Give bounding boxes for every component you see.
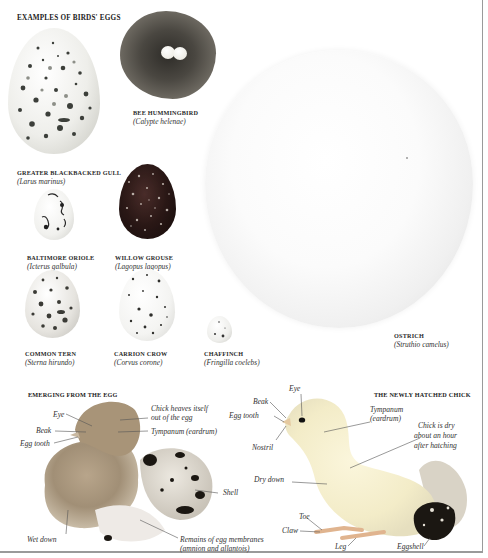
common-name: OSTRICH (394, 331, 449, 340)
label-heaves-line2: out of the egg (151, 413, 193, 422)
label-egg-tooth-hatched: Egg tooth (229, 411, 259, 420)
speckles-pattern (119, 269, 175, 341)
label-tympanum: Tympanum (eardrum) (151, 427, 217, 436)
baltimore-oriole-egg-image (34, 189, 74, 240)
caption-greater-blackbacked-gull: GREATER BLACKBACKED GULL (Larus marinus) (17, 168, 121, 186)
label-dry-line2: about an hour (414, 431, 457, 440)
common-name: CARRION CROW (114, 349, 167, 358)
label-toe: Toe (299, 512, 310, 521)
label-dry-line1: Chick is dry (418, 421, 455, 430)
label-eye: Eye (53, 410, 64, 419)
common-name: WILLOW GROUSE (115, 253, 173, 262)
label-shell: Shell (223, 488, 238, 497)
scientific-name: (Corvus corone) (114, 358, 167, 367)
speckles-pattern (8, 28, 100, 154)
label-egg-tooth: Egg tooth (20, 439, 50, 448)
caption-chaffinch: CHAFFINCH (Fringilla coelebs) (204, 349, 260, 367)
gull-egg-image (8, 28, 100, 154)
scientific-name: (Struthio camelus) (394, 340, 449, 349)
label-dry-down: Dry down (254, 475, 284, 484)
label-claw: Claw (282, 526, 298, 535)
label-eggshell: Eggshell (397, 542, 424, 551)
label-leg: Leg (335, 542, 346, 551)
scientific-name: (Calypte helenae) (133, 117, 198, 126)
hummingbird-egg-2 (173, 47, 187, 60)
caption-baltimore-oriole: BALTIMORE ORIOLE (Icterus galbula) (27, 253, 94, 271)
common-name: BEE HUMMINGBIRD (133, 108, 198, 117)
eggs-section-heading: EXAMPLES OF BIRDS' EGGS (17, 14, 121, 22)
label-nostril: Nostril (252, 443, 273, 452)
common-tern-egg-image (25, 270, 80, 338)
willow-grouse-egg-image (119, 164, 176, 239)
label-beak: Beak (36, 426, 51, 435)
chaffinch-egg-image (207, 316, 232, 343)
common-name: GREATER BLACKBACKED GULL (17, 168, 121, 177)
encyclopedia-page: EXAMPLES OF BIRDS' EGGS (0, 0, 483, 553)
carrion-crow-egg-image (119, 269, 175, 341)
label-dry-line3: after hatching (414, 441, 457, 450)
label-wet-down: Wet down (27, 535, 56, 544)
label-tympanum-hatched-line1: Tympanum (370, 405, 403, 414)
scientific-name: (Larus marinus) (17, 177, 121, 186)
common-name: CHAFFINCH (204, 349, 260, 358)
label-heaves-line1: Chick heaves itself (151, 404, 208, 413)
scientific-name: (Fringilla coelebs) (204, 358, 260, 367)
caption-ostrich: OSTRICH (Struthio camelus) (394, 331, 449, 349)
hatched-chick-illustration (244, 380, 484, 555)
label-membranes-line2: (amnion and allantois) (180, 544, 250, 553)
label-tympanum-hatched-line2: (eardrum) (370, 414, 401, 423)
label-beak-hatched: Beak (253, 397, 268, 406)
label-eye-hatched: Eye (289, 384, 300, 393)
mottled-pattern (119, 164, 176, 239)
caption-common-tern: COMMON TERN (Sterna hirundo) (25, 349, 76, 367)
common-name: BALTIMORE ORIOLE (27, 253, 94, 262)
common-name: COMMON TERN (25, 349, 76, 358)
scribble-pattern (34, 189, 74, 240)
ostrich-egg-image (205, 50, 473, 328)
caption-bee-hummingbird: BEE HUMMINGBIRD (Calypte helenae) (133, 108, 198, 126)
scientific-name: (Sterna hirundo) (25, 358, 76, 367)
speckles-pattern (25, 270, 80, 338)
speckles-pattern (207, 316, 232, 343)
caption-carrion-crow: CARRION CROW (Corvus corone) (114, 349, 167, 367)
ostrich-egg-speck (406, 157, 408, 159)
